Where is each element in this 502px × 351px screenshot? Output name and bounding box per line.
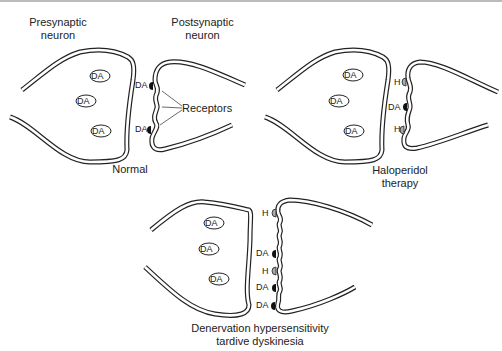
vesicle-da: DA bbox=[330, 96, 343, 106]
receptor-label-da: DA bbox=[256, 300, 269, 310]
receptor-label-da: DA bbox=[256, 282, 269, 292]
receptor-label-da: DA bbox=[388, 102, 401, 112]
receptor-label-da: DA bbox=[135, 124, 148, 134]
haloperidol-receptor-da bbox=[403, 103, 407, 111]
haloperidol-receptor-h-2 bbox=[400, 126, 404, 134]
normal-receptor-da-1 bbox=[149, 82, 153, 90]
haloperidol-caption-line1: Haloperidol bbox=[350, 164, 450, 177]
haloperidol-caption-line2: therapy bbox=[350, 177, 450, 190]
haloperidol-receptor-h-1 bbox=[402, 78, 406, 86]
receptor-label-h: H bbox=[394, 124, 401, 134]
presynaptic-neuron-label: Presynaptic neuron bbox=[22, 16, 94, 42]
synapse-diagram: .mem{fill:none;stroke:#222;stroke-width:… bbox=[0, 0, 502, 351]
receptor-label-da: DA bbox=[256, 248, 269, 258]
vesicle-da: DA bbox=[344, 70, 357, 80]
haloperidol-presynaptic-membrane bbox=[265, 50, 389, 162]
denervation-receptor-da-3 bbox=[271, 302, 275, 310]
denervation-receptor-h-1 bbox=[272, 209, 276, 217]
receptor-label-h: H bbox=[262, 208, 269, 218]
receptors-label: Receptors bbox=[182, 102, 232, 115]
vesicle-da: DA bbox=[92, 126, 105, 136]
vesicle-da: DA bbox=[200, 244, 213, 254]
vesicle-da: DA bbox=[77, 96, 90, 106]
denervation-receptor-da-1 bbox=[272, 250, 276, 258]
vesicle-da: DA bbox=[91, 71, 104, 81]
receptor-label-h: H bbox=[262, 266, 269, 276]
vesicle-da: DA bbox=[210, 274, 223, 284]
vesicle-da: DA bbox=[345, 126, 358, 136]
vesicle-da: DA bbox=[205, 218, 218, 228]
denervation-receptor-h-2 bbox=[272, 267, 276, 275]
postsynaptic-neuron-label: Postsynaptic neuron bbox=[165, 16, 240, 42]
receptor-label-da: DA bbox=[135, 80, 148, 90]
receptor-label-h: H bbox=[394, 77, 401, 87]
receptor-callout-lines bbox=[160, 91, 182, 125]
denervation-postsynaptic-membrane bbox=[278, 200, 372, 312]
normal-caption: Normal bbox=[100, 163, 160, 176]
denervation-caption-line2: tardive dyskinesia bbox=[180, 335, 340, 348]
denervation-caption-line1: Denervation hypersensitivity bbox=[180, 322, 340, 335]
denervation-presynaptic-membrane bbox=[145, 202, 251, 316]
denervation-receptor-da-2 bbox=[272, 284, 276, 292]
normal-receptor-da-2 bbox=[147, 126, 151, 134]
haloperidol-postsynaptic-membrane bbox=[404, 62, 498, 149]
normal-presynaptic-membrane bbox=[10, 50, 134, 162]
